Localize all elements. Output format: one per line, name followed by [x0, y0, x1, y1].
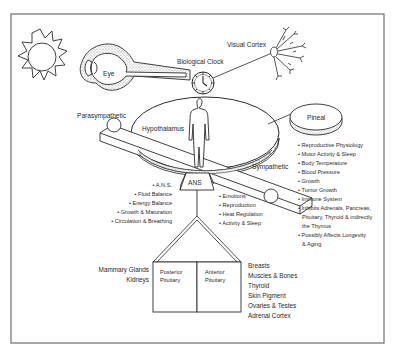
list-item: A.N.S. — [111, 181, 172, 190]
list-item: Growth — [298, 177, 372, 186]
list-item: Skin Pigment — [248, 291, 297, 301]
visual-cortex-label: Visual Cortex — [227, 40, 266, 49]
hypothalamus-functions-list: A.N.S. Fluid Balance Energy Balance Grow… — [111, 181, 172, 226]
pineal-functions-list: Reproductive Physiology Motor Activity &… — [298, 141, 372, 249]
sympathetic-ball — [264, 189, 278, 203]
list-item: Motor Activity & Sleep — [298, 150, 372, 159]
list-item: Body Temperature — [298, 159, 372, 168]
posterior-targets-list: Mammary Glands Kidneys — [99, 265, 149, 285]
pineal-label: Pineal — [307, 113, 325, 122]
list-item: Circulation & Breathing — [111, 217, 172, 226]
list-item: Adrenal Cortex — [248, 311, 297, 321]
list-item: Immune System — [298, 195, 372, 204]
list-item: Muscles & Bones — [248, 271, 297, 281]
list-item: Energy Balance — [111, 199, 172, 208]
list-item: Activity & Sleep — [219, 219, 263, 228]
visual-cortex-neuron-icon — [271, 27, 307, 80]
posterior-pituitary-label-2: Pituitary — [160, 276, 180, 285]
list-item: Fluid Balance — [111, 190, 172, 199]
biological-clock-label: Biological Clock — [177, 57, 224, 66]
list-item: Reproductive Physiology — [298, 141, 372, 150]
list-item: Pituitary, Thyroid & indirectly — [298, 213, 372, 222]
hypothalamus-label: Hypothalamus — [142, 124, 184, 133]
list-item: Thyroid — [248, 281, 297, 291]
list-item: Reproduction — [219, 201, 263, 210]
parasympathetic-label: Parasympathetic — [77, 111, 126, 120]
list-item: Growth & Maturation — [111, 208, 172, 217]
parasympathetic-ball — [107, 118, 121, 132]
list-item: Heat Regulation — [219, 210, 263, 219]
ans-label: ANS — [188, 178, 202, 187]
eye-label: Eye — [103, 69, 114, 78]
ans-functions-list: Emotions Reproduction Heat Regulation Ac… — [219, 192, 263, 228]
anterior-targets-list: Breasts Muscles & Bones Thyroid Skin Pig… — [248, 261, 297, 321]
list-item: Blood Pressure — [298, 168, 372, 177]
list-item: Kidneys — [99, 275, 149, 285]
anterior-pituitary-label-2: Pituitary — [205, 276, 225, 285]
sympathetic-label: Sympathetic — [252, 162, 288, 171]
sun-icon — [18, 29, 67, 80]
list-item: Tumor Growth — [298, 186, 372, 195]
list-item: the Thymus — [298, 222, 372, 231]
list-item: Ovaries & Testes — [248, 301, 297, 311]
eye-icon — [80, 44, 190, 90]
list-item: Emotions — [219, 192, 263, 201]
list-item: & Aging — [298, 240, 372, 249]
list-item: Breasts — [248, 261, 297, 271]
biological-clock-icon — [192, 72, 214, 94]
list-item: Possibly Affects Longevity — [298, 231, 372, 240]
list-item: Mammary Glands — [99, 265, 149, 275]
list-item: Inhibits Adrenals, Pancreas, — [298, 204, 372, 213]
